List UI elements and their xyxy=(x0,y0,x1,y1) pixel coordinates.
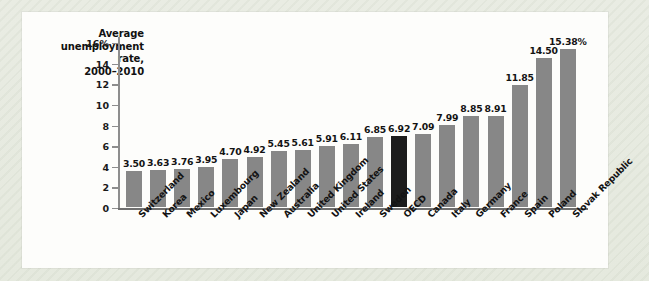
bar-value-label: 4.70 xyxy=(219,146,241,157)
bar xyxy=(560,49,576,208)
y-axis-tick-mark xyxy=(112,64,118,65)
bar-value-label: 3.63 xyxy=(147,157,169,168)
y-axis-tick-label: 12 xyxy=(96,79,109,90)
bar-value-label: 6.92 xyxy=(388,123,410,134)
y-axis-line xyxy=(118,37,120,209)
y-axis-tick-mark xyxy=(112,208,118,209)
y-axis-tick-label: 10 xyxy=(96,99,109,110)
bar-value-label: 5.61 xyxy=(292,137,314,148)
bar-column: 14.50 xyxy=(536,42,552,208)
y-axis-tick-label: 14 xyxy=(96,58,109,69)
bar-column: 8.85 xyxy=(463,100,479,207)
bar-column: 3.50 xyxy=(126,155,142,207)
bar-value-label: 3.50 xyxy=(123,158,145,169)
bar-column: 15.38% xyxy=(560,33,576,208)
bar-column: 11.85 xyxy=(512,69,528,207)
y-axis-tick-mark xyxy=(112,187,118,188)
y-axis-tick-label: 8 xyxy=(102,120,109,131)
y-axis-tick-label: 6 xyxy=(102,141,109,152)
bar xyxy=(536,58,552,208)
x-axis-category-labels: SwitzerlandKoreaMexicoLuxembourgJapanNew… xyxy=(118,212,649,281)
page-background: Average unemployment rate, 2000–2010 024… xyxy=(0,0,649,281)
bar-value-label: 7.09 xyxy=(412,121,434,132)
bar-value-label: 4.92 xyxy=(243,144,265,155)
bar-value-label: 5.91 xyxy=(316,133,338,144)
bar-value-label: 8.85 xyxy=(460,103,482,114)
y-axis-tick-mark xyxy=(112,105,118,106)
y-axis-tick-label: 4 xyxy=(102,161,109,172)
bar-value-label: 7.99 xyxy=(436,112,458,123)
bar-value-label: 8.91 xyxy=(484,103,506,114)
bar-value-label: 11.85 xyxy=(505,72,533,83)
y-axis-tick-label: 2 xyxy=(102,182,109,193)
y-axis-tick-mark xyxy=(112,43,118,44)
bar-value-label: 3.76 xyxy=(171,156,193,167)
y-axis-tick-label: 16% xyxy=(86,38,109,49)
y-axis-tick-mark xyxy=(112,146,118,147)
bar-value-label: 15.38% xyxy=(549,36,587,47)
bar-value-label: 3.95 xyxy=(195,154,217,165)
bar xyxy=(463,116,479,207)
y-axis-tick-mark xyxy=(112,167,118,168)
y-axis-tick-label: 0 xyxy=(102,203,109,214)
bar-value-label: 5.45 xyxy=(268,138,290,149)
chart-panel: Average unemployment rate, 2000–2010 024… xyxy=(22,12,608,268)
bar-value-label: 6.11 xyxy=(340,131,362,142)
bar xyxy=(126,171,142,207)
y-axis-tick-mark xyxy=(112,84,118,85)
plot-area: 0246810121416% 3.503.633.763.954.704.925… xyxy=(118,37,588,209)
bar-value-label: 6.85 xyxy=(364,124,386,135)
y-axis-tick-mark xyxy=(112,126,118,127)
